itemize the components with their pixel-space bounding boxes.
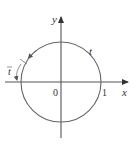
t-bar-arc-arrow <box>17 64 22 80</box>
y-axis-label: y <box>51 13 57 25</box>
t-bar-tick-mark <box>20 59 27 64</box>
x-axis-label: x <box>121 86 127 98</box>
t-bar-label: t <box>8 66 11 77</box>
t-label: t <box>89 45 93 57</box>
unit-circle-diagram: y x 0 1 t t <box>0 0 140 144</box>
one-label: 1 <box>102 87 107 98</box>
circle-direction-arrow <box>29 50 37 58</box>
origin-label: 0 <box>53 87 58 98</box>
